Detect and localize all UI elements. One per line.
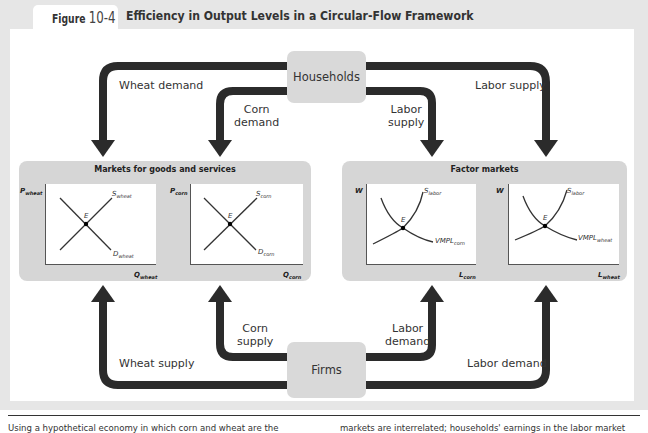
households-node: Households <box>287 51 366 103</box>
wheat-supply-label: Wheat supply <box>119 357 194 370</box>
labor-supply-inner-label: Laborsupply <box>388 103 424 129</box>
supply-wheat-label: Swheat <box>112 190 132 199</box>
wheat-price-axis-label: Pwheat <box>20 187 42 196</box>
corn-demand-label: Corndemand <box>234 103 279 129</box>
labor-demand-outer-label: Labor demand <box>467 357 547 370</box>
labor-corn-graph: Slabor VMPLcorn E <box>366 184 476 265</box>
corn-price-axis-label: Pcorn <box>170 187 188 196</box>
corn-curves <box>191 184 303 264</box>
equilibrium-label: E <box>228 212 232 220</box>
arrowhead-up <box>91 285 115 302</box>
wheat-market-graph: Swheat Dwheat E <box>45 184 156 265</box>
wheat-curves <box>46 184 156 264</box>
firms-label: Firms <box>311 363 342 377</box>
arrowhead-up <box>208 285 232 302</box>
demand-corn-label: Dcorn <box>258 248 274 257</box>
labor-supply-outer-label: Labor supply <box>475 79 546 92</box>
labor-wheat-graph: Slabor VMPLwheat E <box>508 184 619 265</box>
households-label: Households <box>293 70 360 84</box>
caption-right: markets are interrelated; households' ea… <box>340 422 625 433</box>
equilibrium-label: E <box>543 214 547 222</box>
labor-wheat-axis-label: Lwheat <box>598 271 620 280</box>
arrowhead-down <box>208 140 232 157</box>
labor-corn-axis-label: Lcorn <box>459 271 476 280</box>
goods-market-title: Markets for goods and services <box>19 165 311 174</box>
wheat-quantity-axis-label: Qwheat <box>134 271 157 280</box>
figure-page: Figure 10-4 Efficiency in Output Levels … <box>0 0 648 433</box>
wage-axis-label-wheat: W <box>496 187 504 195</box>
wheat-demand-label: Wheat demand <box>119 79 203 92</box>
caption-left: Using a hypothetical economy in which co… <box>8 422 278 433</box>
corn-supply-label: Cornsupply <box>237 322 273 348</box>
corn-market-graph: Scorn Dcorn E <box>190 184 303 265</box>
equilibrium-label: E <box>84 212 88 220</box>
corn-quantity-axis-label: Qcorn <box>283 271 301 280</box>
arrowhead-down <box>420 140 444 157</box>
arrowhead-down <box>534 140 558 157</box>
vmpl-wheat-label: VMPLwheat <box>578 234 612 243</box>
caption-divider <box>8 415 640 416</box>
vmpl-corn-label: VMPLcorn <box>435 237 465 246</box>
arrowhead-up <box>534 285 558 302</box>
factor-market-title: Factor markets <box>342 165 627 174</box>
demand-wheat-label: Dwheat <box>113 250 134 259</box>
labor-demand-inner-label: Labordemand <box>385 322 430 348</box>
labor-corn-curves <box>367 184 476 264</box>
supply-labor-label: Slabor <box>567 187 584 196</box>
supply-corn-label: Scorn <box>256 190 272 199</box>
arrowhead-up <box>420 285 444 302</box>
wage-axis-label-corn: W <box>355 187 363 195</box>
supply-labor-label: Slabor <box>424 187 441 196</box>
arrowhead-down <box>91 140 115 157</box>
labor-wheat-curves <box>509 184 619 264</box>
firms-node: Firms <box>287 342 366 398</box>
equilibrium-label: E <box>401 216 405 224</box>
